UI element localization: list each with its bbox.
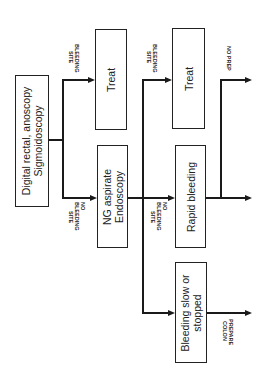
arrow-head-icon: [90, 195, 97, 201]
connector-no-prep-vertical: [220, 79, 222, 199]
arrow-head-icon: [245, 195, 252, 201]
node-ng-aspirate-endoscopy: NG aspirate Endoscopy: [97, 145, 128, 248]
edge-label-line: BLEEDING: [156, 202, 162, 230]
edge-label-no-prep: NO PREP: [226, 46, 232, 71]
arrow-head-icon: [165, 77, 172, 83]
node-bleeding-slow-stopped: Bleeding slow or stopped: [175, 262, 207, 363]
node-treat-1-text: Treat: [105, 67, 117, 91]
arrow-head-icon: [88, 77, 95, 83]
edge-label-line: BLEEDING: [74, 44, 80, 72]
node-start-digital-rectal: Digital rectal, anoscopy Sigmoidoscopy: [15, 75, 49, 207]
node-start-line1: Digital rectal, anoscopy: [20, 87, 32, 196]
connector-slow-out: [207, 312, 246, 314]
arrow-head-icon: [168, 195, 175, 201]
arrow-head-icon: [245, 77, 252, 83]
edge-label-line: BLEEDING: [74, 202, 80, 230]
edge-label-line: NO: [80, 202, 86, 230]
connector-to-rapid: [142, 197, 169, 199]
edge-label-prepare-colon: PREPARE COLON: [222, 319, 234, 345]
connector-to-treat-2: [142, 79, 166, 81]
connector-to-slow: [142, 312, 169, 314]
node-slow-text: Bleeding slow or stopped: [179, 274, 203, 351]
edge-label-line: NO: [162, 202, 168, 230]
connector-rapid-out: [206, 197, 246, 199]
connector-to-treat-1: [62, 79, 89, 81]
connector-branch-1-vertical: [62, 79, 64, 199]
node-slow-line2: stopped: [191, 274, 203, 351]
node-ng-line2: Endoscopy: [113, 168, 125, 224]
node-rapid-bleeding: Rapid bleeding: [175, 145, 206, 248]
node-treat-2-text: Treat: [183, 66, 195, 90]
node-start-text: Digital rectal, anoscopy Sigmoidoscopy: [20, 87, 44, 196]
connector-to-ng: [62, 197, 91, 199]
node-rapid-text: Rapid bleeding: [185, 161, 197, 231]
node-ng-line1: NG aspirate: [101, 168, 113, 224]
edge-label-line: NO PREP: [226, 46, 232, 71]
node-treat-1: Treat: [95, 29, 127, 130]
edge-label-bleeding-site-1: BLEEDING SITE: [68, 44, 80, 72]
edge-label-bleeding-site-2: BLEEDING SITE: [146, 44, 158, 72]
node-start-line2: Sigmoidoscopy: [32, 87, 44, 196]
connector-no-prep-out: [220, 79, 246, 81]
edge-label-line: BLEEDING: [152, 44, 158, 72]
edge-label-no-bleeding-site-1: NO BLEEDING SITE: [68, 202, 86, 230]
node-ng-text: NG aspirate Endoscopy: [101, 168, 125, 224]
arrow-head-icon: [168, 310, 175, 316]
edge-label-line: PREPARE: [228, 319, 234, 345]
node-treat-2: Treat: [172, 28, 205, 129]
arrow-head-icon: [245, 310, 252, 316]
node-slow-line1: Bleeding slow or: [179, 274, 191, 351]
edge-label-no-bleeding-site-2: NO BLEEDING SITE: [150, 202, 168, 230]
